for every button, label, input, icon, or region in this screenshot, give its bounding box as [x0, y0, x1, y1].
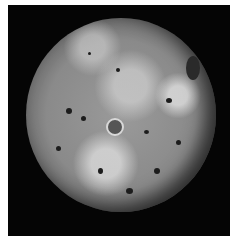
- dark-spot: [166, 98, 172, 103]
- dark-spot: [144, 130, 149, 134]
- moon-io: [26, 18, 216, 212]
- dark-spot: [116, 68, 120, 72]
- dark-spot: [66, 108, 72, 114]
- dark-spot: [81, 116, 86, 121]
- dark-spot: [176, 140, 181, 145]
- crater: [106, 118, 124, 136]
- dark-spot: [126, 188, 133, 194]
- dark-spot: [186, 56, 200, 80]
- dark-spot: [56, 146, 61, 151]
- dark-spot: [98, 168, 103, 174]
- dark-spot: [88, 52, 91, 55]
- dark-spot: [154, 168, 160, 174]
